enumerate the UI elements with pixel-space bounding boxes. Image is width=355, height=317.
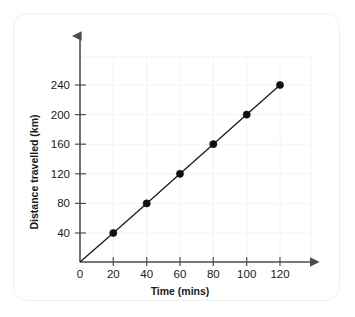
chart-plot-area: 240 200 160 120 80 40 0 20 40 60 80 100 …: [0, 0, 355, 317]
x-tick-label: 120: [270, 268, 289, 280]
data-point: [276, 81, 283, 88]
x-tick-labels: 0 20 40 60 80 100 120: [77, 268, 290, 280]
data-point: [243, 111, 250, 118]
x-axis-title: Time (mins): [151, 285, 210, 297]
y-tick-label: 240: [51, 79, 70, 91]
data-point: [110, 229, 117, 236]
x-tick-label: 20: [107, 268, 120, 280]
x-tick-label: 100: [237, 268, 256, 280]
data-point: [210, 141, 217, 148]
y-tick-label: 120: [51, 168, 70, 180]
y-tick-label: 160: [51, 138, 70, 150]
x-axis: [80, 257, 318, 266]
horizontal-gridlines: [80, 85, 311, 233]
data-point: [143, 200, 150, 207]
data-point: [176, 170, 183, 177]
x-tick-label: 40: [140, 268, 153, 280]
distance-time-line-chart: 240 200 160 120 80 40 0 20 40 60 80 100 …: [0, 0, 355, 317]
y-tick-label: 40: [57, 227, 70, 239]
x-tick-label: 0: [77, 268, 83, 280]
y-tick-labels: 240 200 160 120 80 40: [51, 79, 70, 239]
y-tick-label: 80: [57, 197, 70, 209]
y-tick-label: 200: [51, 109, 70, 121]
x-tick-label: 80: [207, 268, 220, 280]
data-series: [80, 81, 284, 262]
y-axis-title: Distance travelled (km): [28, 115, 40, 230]
x-tick-label: 60: [174, 268, 187, 280]
y-axis: [75, 36, 86, 262]
